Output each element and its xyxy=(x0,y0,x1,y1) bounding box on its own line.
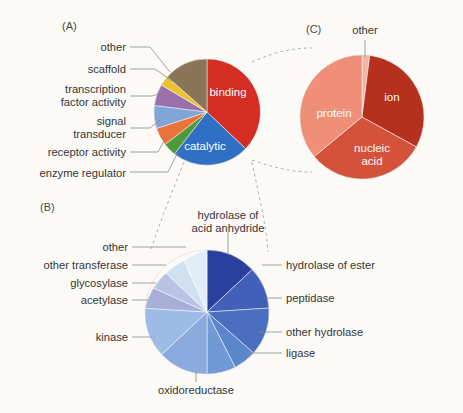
panel-a-label: (A) xyxy=(62,20,77,32)
figure-container: (A) binding xyxy=(0,0,463,413)
leader-receptor-activity xyxy=(130,137,166,152)
leader-other-a xyxy=(130,47,170,72)
panel-b: (B) xyxy=(40,201,375,396)
pie-a-leader-label-enzyme-regulator: enzyme regulator xyxy=(40,167,127,179)
pie-c-label-nucleic-acid-line1: nucleic xyxy=(354,142,390,154)
pie-b-leader-label-hydrolase-ester: hydrolase of ester xyxy=(286,259,375,271)
pie-b-leader-label-hydrolase-anhydride-line1: hydrolase of xyxy=(198,209,260,221)
panel-b-label: (B) xyxy=(40,201,55,213)
connector-a-to-b xyxy=(150,162,268,252)
pie-b-leader-label-kinase: kinase xyxy=(96,331,128,343)
connector-a-to-c-top xyxy=(252,48,312,62)
pie-c-label-nucleic-acid-line2: acid xyxy=(361,155,382,167)
pie-b-leader-label-other-transferase: other transferase xyxy=(43,259,128,271)
leader-enzyme-regulator xyxy=(130,152,178,172)
pie-a-label-catalytic: catalytic xyxy=(184,140,226,152)
pie-a-leader-label-other: other xyxy=(101,41,127,53)
pie-a-leader-label-signal-line1: signal xyxy=(97,115,126,127)
panel-c: (C) ion protein nucleic acid other xyxy=(300,23,424,179)
panel-c-label: (C) xyxy=(306,23,321,35)
pie-b-leader-label-acetylase: acetylase xyxy=(81,294,128,306)
pie-c-label-protein: protein xyxy=(316,107,351,119)
pie-b-leader-label-glycosylase: glycosylase xyxy=(70,277,128,289)
pie-a-leader-label-transcription-line2: factor activity xyxy=(61,96,127,108)
pie-b-leader-label-other-hydrolase: other hydrolase xyxy=(286,326,363,338)
pie-b-leader-label-hydrolase-anhydride-line2: acid anhydride xyxy=(192,222,265,234)
panel-b-pie xyxy=(145,250,269,374)
pie-a-leader-label-receptor-activity: receptor activity xyxy=(48,146,127,158)
pie-c-label-ion: ion xyxy=(384,91,399,103)
pie-b-leader-label-peptidase: peptidase xyxy=(286,292,335,304)
connector-a-to-b-right xyxy=(252,162,268,252)
panel-a: (A) binding xyxy=(40,20,261,179)
pie-b-leader-label-ligase: ligase xyxy=(286,347,315,359)
pie-a-label-binding: binding xyxy=(209,86,246,98)
pie-a-leader-label-signal-line2: transducer xyxy=(73,128,126,140)
pie-chart-figure: (A) binding xyxy=(0,0,463,413)
pie-b-leader-label-oxidoreductase: oxidoreductase xyxy=(158,384,234,396)
connector-a-to-b-left xyxy=(150,162,184,252)
pie-c-leader-label-other: other xyxy=(352,24,378,36)
pie-a-leader-label-transcription-line1: transcription xyxy=(65,83,126,95)
pie-a-leader-label-scaffold: scaffold xyxy=(88,63,126,75)
pie-b-leader-label-other: other xyxy=(103,241,129,253)
connector-a-to-c-bottom xyxy=(252,160,312,172)
